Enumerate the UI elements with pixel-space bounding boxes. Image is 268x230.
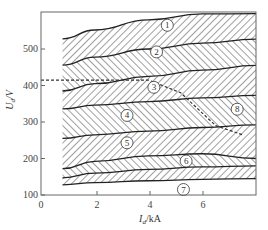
x-tick-label: 6 [201, 199, 206, 210]
region-label-6: 6 [184, 156, 189, 166]
x-axis-label: Id/kA [138, 213, 162, 226]
line-label-8: 8 [235, 104, 240, 114]
x-tick-label: 4 [148, 199, 153, 210]
y-tick-label: 200 [23, 153, 38, 164]
y-tick-label: 100 [23, 189, 38, 200]
region-label-4: 4 [125, 110, 130, 120]
chart: 123456781002003004005000246Id/kAUd/V [0, 0, 268, 230]
region-label-5: 5 [125, 138, 130, 148]
y-tick-label: 400 [23, 80, 38, 91]
y-tick-label: 300 [23, 116, 38, 127]
x-tick-label: 0 [39, 199, 44, 210]
y-tick-label: 500 [23, 43, 38, 54]
region-label-3: 3 [152, 82, 157, 92]
region-label-7: 7 [181, 185, 186, 195]
x-tick-label: 2 [95, 199, 100, 210]
y-axis-label: Ud/V [4, 88, 17, 110]
region-label-2: 2 [154, 47, 159, 57]
region-label-1: 1 [165, 20, 170, 30]
